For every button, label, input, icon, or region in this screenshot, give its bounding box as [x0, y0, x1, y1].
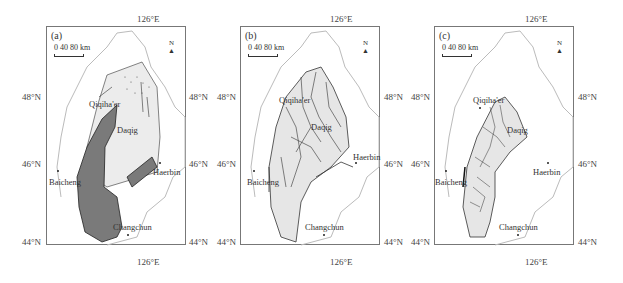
- city-dot-changchun-b: [323, 234, 325, 236]
- city-haerbin-a: Haerbin: [153, 167, 180, 177]
- lat-label-right-46-c: 46°N: [578, 159, 597, 169]
- panel-label-b: (b): [245, 30, 257, 41]
- lat-label-right-48-a: 48°N: [189, 92, 208, 102]
- map-graphic-b: [241, 27, 381, 246]
- lat-label-right-46-b: 46°N: [384, 159, 403, 169]
- city-baicheng-b: Baicheng: [247, 177, 279, 187]
- city-qiqihaer-c: Qiqiha'er: [473, 95, 504, 105]
- lat-label-left-48-a: 48°N: [22, 92, 41, 102]
- city-daqing-b: Daqig: [311, 122, 332, 132]
- city-dot-baicheng-c: [445, 170, 447, 172]
- lat-label-right-44-c: 44°N: [578, 237, 597, 247]
- city-qiqihaer-b: Qiqiha'er: [279, 95, 310, 105]
- map-panel-c: (c) 0 40 80 km N▲ Qiqiha'er Daqig Baiche…: [434, 26, 574, 245]
- scale-bar-b: [248, 54, 278, 57]
- map-graphic-c: [435, 27, 575, 246]
- lat-label-right-44-a: 44°N: [189, 237, 208, 247]
- north-arrow-icon-a: N▲: [168, 39, 175, 55]
- lon-label-top-b: 126°E: [330, 14, 353, 24]
- city-daqing-c: Daqig: [507, 125, 528, 135]
- city-daqing-a: Daqig: [117, 125, 138, 135]
- city-dot-haerbin-c: [547, 162, 549, 164]
- scale-label-a: 0 40 80 km: [54, 43, 90, 52]
- city-changchun-b: Changchun: [305, 222, 344, 232]
- city-dot-baicheng-b: [253, 170, 255, 172]
- city-haerbin-c: Haerbin: [533, 167, 560, 177]
- lon-label-top-a: 126°E: [137, 14, 160, 24]
- lon-label-bottom-a: 126°E: [137, 257, 160, 267]
- city-dot-haerbin-a: [159, 162, 161, 164]
- panel-label-a: (a): [51, 30, 62, 41]
- north-label-b: N: [363, 39, 368, 47]
- city-dot-changchun-c: [517, 234, 519, 236]
- lat-label-left-48-c: 48°N: [411, 92, 430, 102]
- map-panel-b: (b) 0 40 80 km N▲ Qiqiha'er Daqig Baiche…: [240, 26, 380, 245]
- lat-label-left-44-c: 44°N: [411, 237, 430, 247]
- panel-label-c: (c): [439, 30, 450, 41]
- lon-label-bottom-b: 126°E: [330, 257, 353, 267]
- city-baicheng-a: Baicheng: [49, 177, 81, 187]
- lat-label-left-44-a: 44°N: [22, 237, 41, 247]
- lat-label-left-46-a: 46°N: [22, 159, 41, 169]
- city-baicheng-c: Baicheng: [435, 177, 467, 187]
- north-arrow-icon-c: N▲: [556, 39, 563, 55]
- city-changchun-c: Changchun: [499, 222, 538, 232]
- map-graphic-a: [47, 27, 187, 246]
- scale-bar-a: [54, 54, 84, 57]
- city-dot-baicheng-a: [57, 170, 59, 172]
- scale-bar-c: [442, 54, 472, 57]
- city-haerbin-b: Haerbin: [353, 152, 380, 162]
- lat-label-left-44-b: 44°N: [217, 237, 236, 247]
- north-label-c: N: [557, 39, 562, 47]
- city-dot-qiqihaer-c: [479, 107, 481, 109]
- lon-label-top-c: 126°E: [525, 14, 548, 24]
- city-dot-changchun-a: [127, 234, 129, 236]
- lon-label-bottom-c: 126°E: [525, 257, 548, 267]
- lat-label-left-46-b: 46°N: [217, 159, 236, 169]
- lat-label-right-48-b: 48°N: [384, 92, 403, 102]
- lat-label-left-48-b: 48°N: [217, 92, 236, 102]
- north-arrow-icon-b: N▲: [362, 39, 369, 55]
- map-panel-a: (a) 0 40 80 km N▲ Qiqiha'er Daqig Baiche…: [46, 26, 186, 245]
- city-changchun-a: Changchun: [113, 222, 152, 232]
- north-label-a: N: [169, 39, 174, 47]
- city-dot-haerbin-b: [355, 162, 357, 164]
- lat-label-right-44-b: 44°N: [384, 237, 403, 247]
- lat-label-right-48-c: 48°N: [578, 92, 597, 102]
- lat-label-right-46-a: 46°N: [189, 159, 208, 169]
- scale-label-c: 0 40 80 km: [442, 43, 478, 52]
- city-qiqihaer-a: Qiqiha'er: [89, 99, 120, 109]
- lat-label-left-46-c: 46°N: [411, 159, 430, 169]
- scale-label-b: 0 40 80 km: [248, 43, 284, 52]
